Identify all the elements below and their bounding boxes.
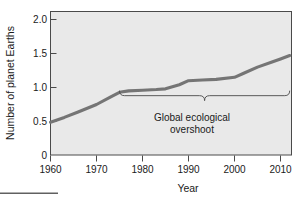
- y-axis-title: Number of planet Earths: [4, 26, 16, 140]
- x-tick-label-1990: 1990: [177, 164, 200, 175]
- x-tick-label-2010: 2010: [269, 164, 292, 175]
- figure-container: 2.0 1.5 1.0 0.5 0 1960 1970 1980 1990 20…: [0, 0, 306, 201]
- y-tick-label-0: 0: [41, 150, 47, 161]
- caption-rule: [0, 193, 58, 194]
- y-tick-label-1.0: 1.0: [33, 82, 47, 93]
- x-tick-label-2000: 2000: [223, 164, 246, 175]
- x-axis-title: Year: [177, 182, 199, 194]
- annotation-line-1: Global ecological: [154, 112, 230, 123]
- x-tick-label-1970: 1970: [85, 164, 108, 175]
- y-tick-label-2.0: 2.0: [33, 14, 47, 25]
- x-axis-ticks: [51, 156, 281, 162]
- annotation-line-2: overshoot: [170, 124, 214, 135]
- y-tick-label-1.5: 1.5: [33, 48, 47, 59]
- x-tick-label-1980: 1980: [131, 164, 154, 175]
- x-tick-label-1960: 1960: [39, 164, 62, 175]
- ecological-footprint-chart: 2.0 1.5 1.0 0.5 0 1960 1970 1980 1990 20…: [0, 0, 306, 201]
- y-tick-label-0.5: 0.5: [33, 116, 47, 127]
